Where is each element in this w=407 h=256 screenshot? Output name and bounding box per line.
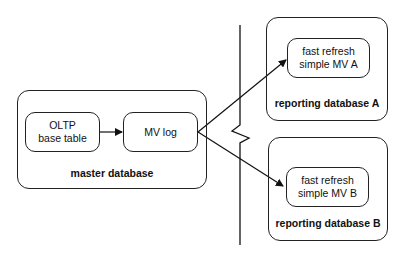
master-database-label: master database <box>17 167 207 179</box>
mv-a-line1: fast refresh <box>302 45 355 58</box>
mv-a-line2: simple MV A <box>299 58 357 71</box>
mv-b-line1: fast refresh <box>301 174 354 187</box>
mv-b-line2: simple MV B <box>298 187 357 200</box>
mv-log: MV log <box>123 112 198 152</box>
simple-mv-a: fast refresh simple MV A <box>287 38 370 78</box>
mv-log-label: MV log <box>144 126 177 139</box>
base-table-line2: base table <box>38 132 86 145</box>
reporting-database-a-label: reporting database A <box>266 97 388 109</box>
reporting-database-b-label: reporting database B <box>268 217 388 229</box>
network-divider <box>232 25 249 245</box>
base-table-line1: OLTP <box>49 119 76 132</box>
simple-mv-b: fast refresh simple MV B <box>286 167 369 207</box>
oltp-base-table: OLTP base table <box>25 112 100 152</box>
